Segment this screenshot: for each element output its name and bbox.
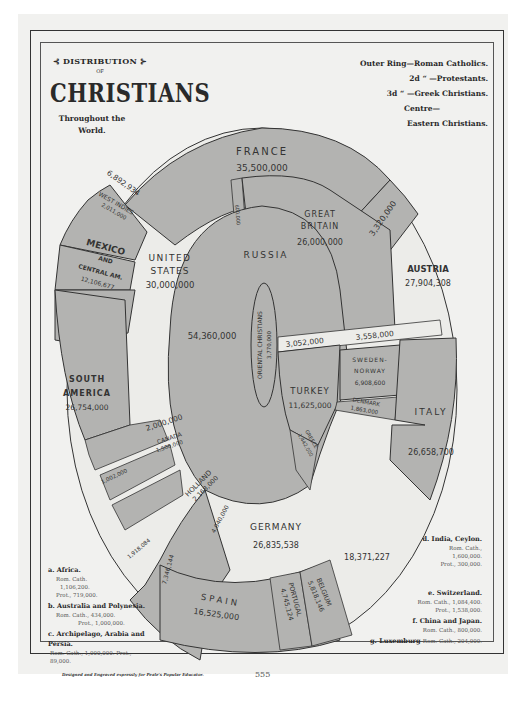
page-number: 555 xyxy=(255,670,270,679)
label-great: GREAT xyxy=(304,210,336,219)
note-detail: Prot., 300,000. xyxy=(398,560,482,568)
note-detail: Rom. Cath., 800,000. xyxy=(360,626,482,634)
legend-row: 2d “ —Protestants. xyxy=(360,71,488,86)
value-austria: 27,904,308 xyxy=(405,279,451,288)
title-distribution: ⊰ DISTRIBUTION ⊱ xyxy=(50,56,150,66)
label-france: FRANCE xyxy=(236,146,288,157)
note-detail: Rom. Cath., 434,000. xyxy=(56,611,148,619)
label-norway: NORWAY xyxy=(354,367,386,374)
value-oriental-christians: 3,770,000 xyxy=(266,331,272,359)
value-france: 35,500,000 xyxy=(236,163,288,173)
title-christians: CHRISTIANS xyxy=(50,77,150,108)
note-detail: Rom. Cath., 1,084,400. xyxy=(360,598,482,606)
value-united-states: 30,000,000 xyxy=(146,280,195,290)
legend-row: 3d “ —Greek Christians. xyxy=(360,86,488,101)
note-label: f. China and Japan. xyxy=(360,616,482,626)
segment-south-america xyxy=(55,290,130,440)
value-turkey: 11,625,000 xyxy=(289,401,332,410)
value-italy: 26,658,700 xyxy=(408,448,454,457)
note-detail: 1,600,000. xyxy=(398,552,482,560)
label-russia: RUSSIA xyxy=(243,250,288,260)
label-germany: GERMANY xyxy=(250,522,302,532)
note-detail: Rom. Cath., xyxy=(398,544,482,552)
legend-row: Centre— xyxy=(360,101,440,116)
legend-row: Eastern Christians. xyxy=(360,116,488,131)
label-italy: ITALY xyxy=(415,407,448,417)
title-block: ⊰ DISTRIBUTION ⊱ OF CHRISTIANS Throughou… xyxy=(50,56,150,137)
note-label: d. India, Ceylon. xyxy=(398,534,482,544)
notes-left: a. Africa. Rom. Cath. 1,106,200. Prot., … xyxy=(48,565,148,665)
engraving-credit: Designed and Engraved expressly for Peal… xyxy=(62,672,204,677)
value-sweden-norway: 6,908,600 xyxy=(355,379,386,386)
label-america: AMERICA xyxy=(63,389,111,398)
title-subtitle: Throughout the World. xyxy=(52,113,132,137)
label-states: STATES xyxy=(151,266,190,276)
value-russia: 54,360,000 xyxy=(188,331,237,341)
note-label: a. Africa. xyxy=(48,565,148,575)
note-detail: Prot., 719,000. xyxy=(56,591,148,599)
notes-right-lower: e. Switzerland. Rom. Cath., 1,084,400. P… xyxy=(360,588,482,646)
label-oriental-christians: ORIENTAL CHRISTIANS xyxy=(256,311,263,379)
note-detail: 1,106,200. xyxy=(60,583,148,591)
label-britain: BRITAIN xyxy=(301,222,340,231)
legend-row: Outer Ring—Roman Catholics. xyxy=(360,56,488,71)
ring-legend: Outer Ring—Roman Catholics. 2d “ —Protes… xyxy=(360,56,488,131)
label-south: SOUTH xyxy=(69,375,105,384)
note-label: c. Archipelago, Arabia and Persia. xyxy=(48,629,148,649)
note-label: e. Switzerland. xyxy=(360,588,482,598)
segment-oriental-christians xyxy=(251,283,277,407)
value-south-america: 26,754,000 xyxy=(66,403,109,412)
value-germany: 26,835,538 xyxy=(253,541,299,550)
value-great-britain: 26,000,000 xyxy=(297,238,343,247)
note-detail: Prot., 1,538,000. xyxy=(360,606,482,614)
note-label: g. Luxemburg Rom. Cath., 204,000. xyxy=(360,636,482,646)
label-sweden: SWEDEN- xyxy=(352,356,388,363)
label-turkey: TURKEY xyxy=(289,386,329,396)
note-detail: Prot., 1,000,000. xyxy=(78,619,148,627)
note-label: b. Australia and Polynesia. xyxy=(48,601,148,611)
notes-right: d. India, Ceylon. Rom. Cath., 1,600,000.… xyxy=(398,534,482,568)
label-austria: AUSTRIA xyxy=(407,264,449,274)
value-germany-protestant: 18,371,227 xyxy=(344,553,390,562)
note-detail: Rom. Cath., 1,000,000. Prot., 89,000. xyxy=(50,649,148,665)
note-detail: Rom. Cath. xyxy=(56,575,148,583)
label-united: UNITED xyxy=(148,253,191,263)
title-of: OF xyxy=(50,68,150,74)
